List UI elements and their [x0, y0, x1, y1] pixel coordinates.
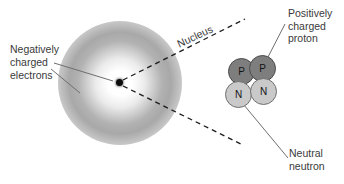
proton-label-line-2: charged — [288, 20, 332, 33]
electrons-label-line-1: Negatively — [10, 43, 59, 56]
neutron-label-line-2: neutron — [289, 160, 325, 173]
proton-label-line-3: proton — [288, 32, 332, 45]
proton-label-line-1: Positively — [288, 7, 332, 20]
neutron-circle-1: N — [225, 81, 252, 108]
nucleus-dot — [116, 79, 123, 86]
neutron-label: Neutral neutron — [289, 147, 325, 173]
electrons-label-line-2: charged — [10, 56, 59, 69]
neutron-label-line-1: Neutral — [289, 147, 325, 160]
electrons-label-line-3: electrons — [10, 69, 59, 82]
proton-leader-line — [268, 24, 285, 57]
callout-dashed-line-upper — [123, 19, 245, 80]
neutron-leader-line — [239, 99, 288, 158]
neutron-circle-2: N — [250, 78, 277, 105]
atom-diagram: P P N N Negatively charged electrons Nuc… — [0, 0, 344, 184]
proton-label: Positively charged proton — [288, 7, 332, 45]
electrons-label: Negatively charged electrons — [10, 43, 59, 82]
